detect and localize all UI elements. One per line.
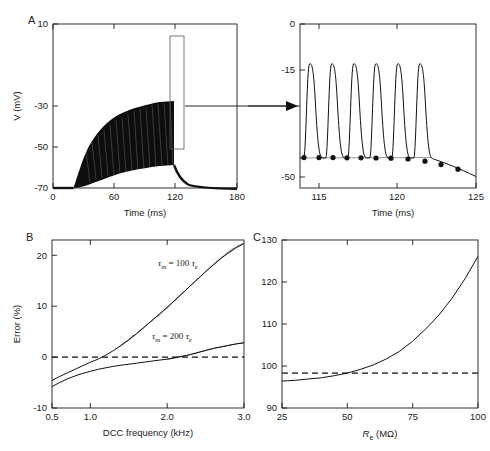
panel-a-right: 115 120 125 0 -15 -50 Time (ms) (248, 0, 490, 228)
x-tick-label: 60 (109, 191, 120, 202)
sample-dot (316, 155, 321, 160)
figure-panel-container: A 0 60 120 (0, 0, 490, 451)
y-tick-label: 120 (261, 276, 277, 287)
y-tick-label: -10 (33, 402, 47, 413)
y-tick-label: 100 (261, 360, 277, 371)
sample-dot (358, 155, 363, 160)
series-tau-m-200 (52, 343, 244, 387)
panel-c-plot: 25 50 75 100 90 100 110 120 130 Re (MΩ) (250, 228, 490, 451)
panel-letter-a: A (28, 14, 35, 26)
y-axis-title: Error (%) (11, 305, 22, 344)
y-tick-label: 90 (266, 402, 277, 413)
panel-letter-b: B (26, 231, 33, 243)
y-tick-label: 10 (37, 18, 48, 29)
x-tick-label: 2.0 (161, 411, 174, 422)
annotation-tau-m-200: τm = 200 τe (152, 331, 192, 344)
panel-c: C 25 50 75 100 (250, 228, 490, 451)
y-tick-label: -15 (281, 64, 295, 75)
x-tick-label: 25 (277, 411, 288, 422)
spike-train-trace (300, 64, 476, 177)
panel-b-plot: 0.5 1.0 2.0 3.0 -10 0 10 20 DCC frequenc… (0, 228, 250, 451)
x-tick-label: 75 (407, 411, 418, 422)
panel-a-left-plot: 0 60 120 180 10 -30 -50 -70 Time (ms) V … (0, 0, 248, 228)
sample-dot (455, 167, 460, 172)
arrow-head-triangle (286, 101, 298, 111)
y-tick-label: 110 (262, 318, 277, 329)
annotation-tau-m-100: τm = 100 τe (158, 258, 198, 271)
x-tick-label: 3.0 (237, 411, 250, 422)
x-tick-label: 100 (470, 411, 486, 422)
y-axis-ticks (53, 24, 58, 188)
panel-b: B 0.5 1.0 2.0 3.0 (0, 228, 250, 451)
x-tick-label: 115 (311, 191, 326, 202)
y-tick-label: 0 (42, 351, 47, 362)
sample-dot (373, 155, 378, 160)
y-tick-label: -50 (281, 171, 295, 182)
x-tick-label: 0 (50, 191, 55, 202)
panel-a-left: A 0 60 120 (0, 0, 248, 228)
x-tick-label: 50 (342, 411, 353, 422)
series-measured (282, 256, 478, 381)
y-axis-title: V (mV) (11, 91, 22, 121)
sample-dot (405, 156, 410, 161)
y-tick-label: 20 (36, 250, 47, 261)
trace-decay (174, 165, 237, 189)
sample-dot (388, 156, 393, 161)
x-axis-title: Re (MΩ) (363, 428, 398, 441)
panel-a-right-plot: 115 120 125 0 -15 -50 Time (ms) (248, 0, 490, 228)
sample-dot (301, 155, 306, 160)
sample-dot (438, 162, 443, 167)
y-axis-ticks (282, 240, 287, 408)
x-axis-title: Time (ms) (372, 207, 414, 218)
sample-dot (422, 159, 427, 164)
plot-frame (282, 240, 478, 408)
sample-dot (344, 155, 349, 160)
x-tick-label: 1.0 (84, 411, 97, 422)
series-tau-m-100 (52, 244, 244, 381)
x-axis-ticks (282, 240, 478, 408)
panel-letter-c: C (253, 231, 261, 243)
x-tick-label: 120 (389, 191, 405, 202)
zoom-arrow-head (248, 101, 298, 111)
y-tick-label: 0 (290, 18, 295, 29)
y-tick-label: 10 (36, 300, 47, 311)
y-tick-label: -30 (34, 100, 48, 111)
burst-envelope (74, 101, 175, 188)
y-tick-label: -50 (34, 141, 48, 152)
x-axis-title: DCC frequency (kHz) (103, 427, 193, 438)
x-tick-label: 125 (468, 191, 484, 202)
y-tick-label: -70 (34, 182, 48, 193)
x-tick-label: 120 (167, 191, 183, 202)
x-axis-ticks (319, 24, 476, 188)
x-tick-label: 0.5 (45, 411, 58, 422)
plot-frame (300, 24, 476, 188)
y-tick-label: 130 (261, 234, 277, 245)
x-tick-label: 180 (229, 191, 245, 202)
sample-dot (330, 155, 335, 160)
x-axis-title: Time (ms) (124, 207, 166, 218)
